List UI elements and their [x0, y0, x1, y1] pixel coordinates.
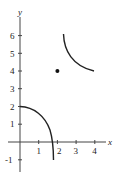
x-tick-label-3: 3: [74, 146, 79, 156]
y-axis-label: y: [17, 7, 22, 17]
curve-right-branch: [64, 34, 95, 71]
function-graph: y x 1 2 3 4 6 5 4 3 2 1 -1: [0, 0, 118, 182]
y-tick-label-6: 6: [10, 31, 15, 41]
y-tick-label-5: 5: [10, 49, 15, 59]
y-tick-label-2: 2: [10, 102, 15, 112]
y-tick-label-3: 3: [10, 84, 15, 94]
x-tick-label-2: 2: [57, 146, 62, 156]
x-axis-label: x: [107, 137, 112, 147]
y-tick-label-4: 4: [10, 66, 15, 76]
x-tick-label-1: 1: [37, 146, 42, 156]
y-tick-label-neg1: -1: [5, 155, 13, 165]
isolated-point: [55, 69, 59, 73]
y-tick-label-1: 1: [10, 119, 15, 129]
x-tick-label-4: 4: [92, 146, 97, 156]
